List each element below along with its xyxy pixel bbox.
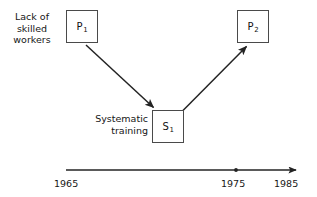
node-p2-text: P2 [248, 21, 259, 32]
node-s1-symbol: S [162, 121, 169, 132]
arrow-p1-to-s1 [86, 45, 154, 108]
node-p1-symbol: P [77, 21, 83, 32]
timeline-tick-label-1965: 1965 [54, 178, 78, 189]
node-s1-text: S1 [162, 121, 173, 132]
node-p2-subscript: 2 [254, 26, 259, 34]
node-p1-text: P1 [77, 21, 88, 32]
node-box-p1[interactable]: P1 [66, 10, 98, 43]
node-s1-subscript: 1 [169, 126, 174, 134]
timeline-tick-label-1975: 1975 [221, 178, 245, 189]
timeline-tick-marker-1975 [234, 168, 238, 172]
node-p2-symbol: P [248, 21, 254, 32]
diagram-canvas: Lack of skilled workers Systematic train… [0, 0, 317, 197]
label-lack-of-skilled-workers: Lack of skilled workers [4, 11, 60, 46]
node-box-s1[interactable]: S1 [152, 110, 184, 143]
node-p1-subscript: 1 [83, 26, 88, 34]
timeline-tick-label-1985: 1985 [274, 178, 298, 189]
label-systematic-training: Systematic training [74, 113, 148, 136]
node-box-p2[interactable]: P2 [237, 10, 269, 43]
arrow-s1-to-p2 [183, 47, 247, 111]
